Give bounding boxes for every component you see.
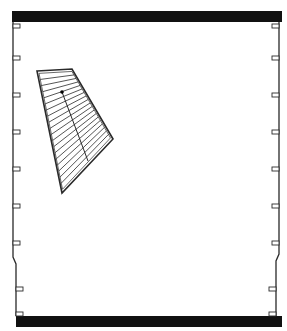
- hatched-panel: [37, 69, 113, 193]
- right-notch: [269, 312, 276, 316]
- right-notch: [272, 167, 279, 171]
- left-notch: [16, 312, 23, 316]
- top-bar: [12, 11, 282, 22]
- pivot-dot: [60, 90, 64, 94]
- left-notch: [16, 287, 23, 291]
- right-notch: [272, 24, 279, 28]
- left-notch: [13, 167, 20, 171]
- left-notch: [13, 130, 20, 134]
- left-notch: [13, 204, 20, 208]
- right-notch: [272, 204, 279, 208]
- left-notch: [13, 56, 20, 60]
- panel-outline: [37, 69, 113, 193]
- right-notch: [272, 241, 279, 245]
- left-notches: [13, 24, 23, 316]
- right-notches: [269, 24, 279, 316]
- diagram-canvas: [0, 0, 287, 331]
- bottom-bar: [16, 316, 282, 327]
- left-notch: [13, 241, 20, 245]
- right-notch: [269, 287, 276, 291]
- left-notch: [13, 93, 20, 97]
- right-notch: [272, 130, 279, 134]
- left-notch: [13, 24, 20, 28]
- right-notch: [272, 56, 279, 60]
- right-notch: [272, 93, 279, 97]
